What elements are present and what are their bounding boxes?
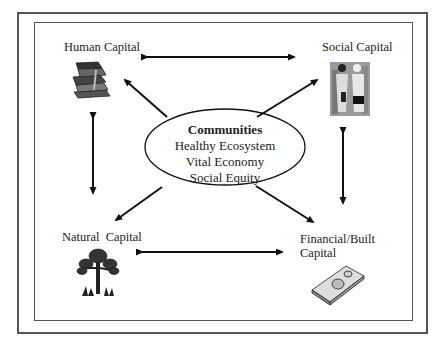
center-title: Communities — [160, 122, 290, 138]
arrow-to-human — [125, 80, 167, 117]
tree-icon — [74, 246, 122, 300]
financial-label-line1: Financial/Built — [300, 232, 375, 246]
books-icon — [70, 60, 118, 102]
financial-capital-label: Financial/Built Capital — [300, 232, 375, 260]
arrow-to-natural — [116, 187, 162, 220]
center-line-1: Healthy Ecosystem — [160, 138, 290, 154]
center-line-3: Social Equity — [160, 170, 290, 186]
human-capital-label: Human Capital — [64, 40, 140, 54]
money-stack-icon — [310, 262, 366, 306]
natural-capital-label: Natural Capital — [62, 230, 142, 244]
communities-text: Communities Healthy Ecosystem Vital Econ… — [160, 122, 290, 186]
arrow-to-financial — [256, 186, 313, 222]
social-capital-label: Social Capital — [322, 40, 392, 54]
people-handshake-icon — [326, 60, 374, 118]
financial-label-line2: Capital — [300, 246, 375, 260]
arrow-to-social — [257, 80, 317, 117]
center-line-2: Vital Economy — [160, 154, 290, 170]
